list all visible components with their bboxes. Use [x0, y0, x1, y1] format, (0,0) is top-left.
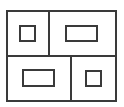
bottom-left-cell — [23, 70, 54, 86]
top-right-cell — [66, 26, 97, 41]
bottom-right-cell — [86, 71, 101, 86]
bottom-right-inner-square — [86, 71, 101, 86]
top-left-inner-square — [20, 26, 35, 41]
top-left-cell — [20, 26, 35, 41]
bottom-left-inner-rectangle — [23, 70, 54, 86]
layout-diagram — [0, 0, 124, 107]
top-right-inner-rectangle — [66, 26, 97, 41]
